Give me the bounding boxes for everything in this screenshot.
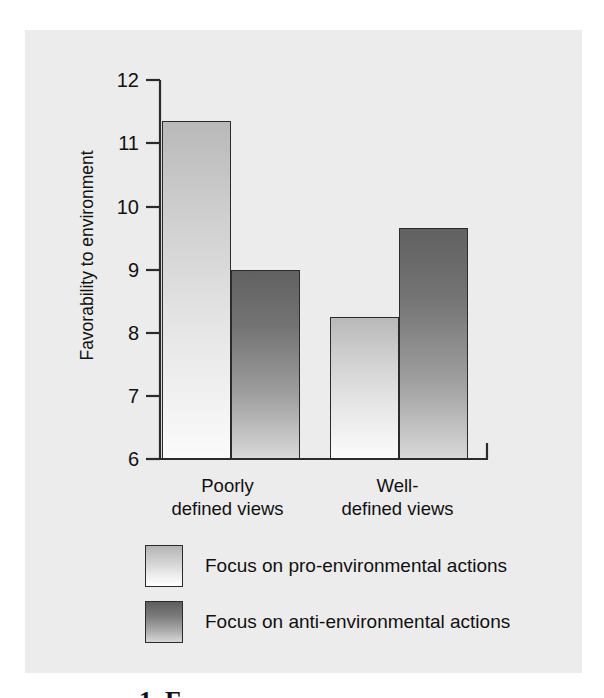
x-category-label-well-defined: Well- defined views: [325, 474, 470, 520]
x-category-label-poorly-defined-line1: Poorly: [155, 474, 300, 497]
y-tick-label-9: 9: [105, 260, 139, 280]
y-tick-label-8: 8: [105, 323, 139, 343]
bar-poorly-defined-anti-environmental: [231, 270, 300, 460]
x-category-label-well-defined-line2: defined views: [325, 497, 470, 520]
x-category-label-poorly-defined-line2: defined views: [155, 497, 300, 520]
chart-legend: Focus on pro-environmental actions Focus…: [145, 538, 575, 650]
axis-lines: [25, 30, 582, 480]
figure-panel: Favorability to environment 12 11 10 9 8…: [25, 30, 582, 673]
y-tick-label-11: 11: [105, 133, 139, 153]
y-tick-label-12: 12: [105, 70, 139, 90]
y-tick-label-10: 10: [105, 197, 139, 217]
bar-well-defined-anti-environmental: [399, 228, 468, 459]
legend-label-pro-environmental: Focus on pro-environmental actions: [205, 555, 507, 577]
bar-well-defined-pro-environmental: [330, 317, 399, 459]
legend-swatch-anti-environmental: [145, 601, 183, 643]
y-tick-label-7: 7: [105, 386, 139, 406]
figure-caption-fragment: 1. F: [139, 688, 181, 698]
x-category-label-poorly-defined: Poorly defined views: [155, 474, 300, 520]
bar-poorly-defined-pro-environmental: [162, 121, 231, 459]
x-category-label-well-defined-line1: Well-: [325, 474, 470, 497]
legend-item-pro-environmental: Focus on pro-environmental actions: [145, 538, 575, 594]
legend-label-anti-environmental: Focus on anti-environmental actions: [205, 611, 510, 633]
plot-area: Favorability to environment 12 11 10 9 8…: [25, 30, 582, 480]
legend-swatch-pro-environmental: [145, 545, 183, 587]
y-tick-label-6: 6: [105, 449, 139, 469]
legend-item-anti-environmental: Focus on anti-environmental actions: [145, 594, 575, 650]
